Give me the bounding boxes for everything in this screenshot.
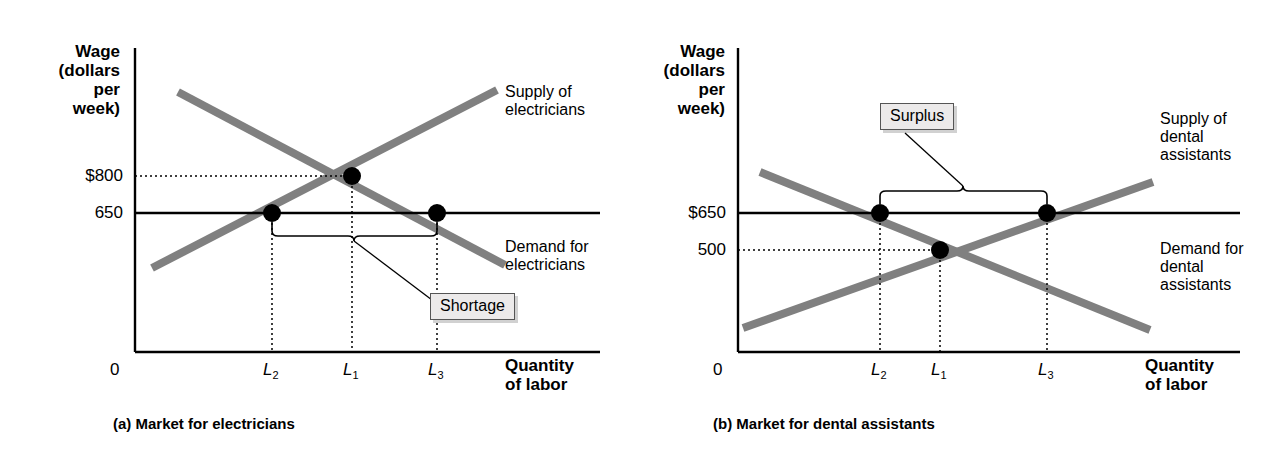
x-axis-title-a: Quantity of labor (505, 356, 625, 394)
panel-caption-a: (a) Market for electricians (113, 415, 295, 432)
x-tick-L3-a-sub: 3 (437, 369, 443, 381)
quantity-demanded-point-a (428, 204, 446, 222)
y-axis-title-b: Wage (dollars per week) (625, 42, 725, 118)
origin-label-a: 0 (110, 360, 119, 380)
quantity-supplied-point-a (263, 204, 281, 222)
supply-curve-a (152, 90, 497, 268)
x-tick-L2-a-sub: 2 (272, 369, 278, 381)
equilibrium-point-b (931, 241, 949, 259)
x-tick-L2-b: L2 (871, 360, 887, 381)
shortage-callout-a: Shortage (430, 293, 515, 320)
quantity-demanded-point-b (871, 204, 889, 222)
surplus-bracket-b (880, 186, 1047, 204)
shortage-bracket-a (272, 222, 437, 241)
shortage-leader-line-a (354, 241, 432, 300)
x-tick-L2-b-sub: 2 (880, 369, 886, 381)
x-tick-L3-b-sub: 3 (1047, 369, 1053, 381)
supply-curve-label-a: Supply of electricians (505, 83, 585, 119)
x-tick-L1-b: L1 (931, 360, 947, 381)
y-axis-title-a: Wage (dollars per week) (20, 42, 120, 118)
demand-curve-label-b: Demand for dental assistants (1160, 240, 1244, 294)
surplus-callout-b: Surplus (880, 103, 954, 130)
x-tick-L2-a: L2 (263, 360, 279, 381)
y-tick-800-a: $800 (55, 166, 123, 186)
x-tick-L3-b: L3 (1038, 360, 1054, 381)
origin-label-b: 0 (713, 360, 722, 380)
supply-curve-label-b: Supply of dental assistants (1160, 110, 1231, 164)
panel-market-for-dental-assistants: Wage (dollars per week) $650 500 0 L2 L1… (640, 0, 1279, 467)
y-tick-650-b: $650 (658, 203, 726, 223)
x-axis-title-b: Quantity of labor (1145, 356, 1265, 394)
surplus-leader-line-b (905, 133, 963, 186)
x-tick-L1-a-sub: 1 (352, 369, 358, 381)
chart-b-graphic (640, 0, 1279, 467)
equilibrium-point-a (343, 167, 361, 185)
x-tick-L1-b-sub: 1 (940, 369, 946, 381)
x-tick-L3-a: L3 (428, 360, 444, 381)
panel-market-for-electricians: Wage (dollars per week) $800 650 0 L2 L1… (0, 0, 639, 467)
demand-curve-a (178, 92, 505, 265)
y-tick-500-b: 500 (658, 240, 726, 260)
x-tick-L1-a: L1 (343, 360, 359, 381)
demand-curve-label-a: Demand for electricians (505, 238, 589, 274)
panel-caption-b: (b) Market for dental assistants (713, 415, 935, 432)
y-tick-650-a: 650 (55, 203, 123, 223)
quantity-supplied-point-b (1038, 204, 1056, 222)
